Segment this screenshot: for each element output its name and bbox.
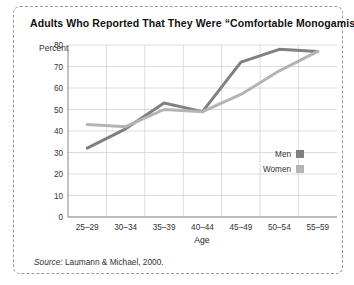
y-tick-label: 50: [54, 106, 64, 115]
plot-container: 01020304050607080 25–2930–3435–3940–4445…: [0, 0, 354, 285]
x-tick-label: 45–49: [230, 223, 253, 232]
y-tick-labels: 01020304050607080: [54, 41, 64, 222]
data-series: [87, 49, 318, 148]
x-tick-label: 40–44: [191, 223, 214, 232]
legend-swatch-women[interactable]: [296, 165, 304, 173]
x-axis-title: Age: [194, 235, 210, 245]
x-tick-label: 30–34: [114, 223, 137, 232]
y-tick-label: 10: [54, 192, 64, 201]
y-tick-label: 0: [58, 213, 63, 222]
legend-swatch-men[interactable]: [296, 150, 304, 158]
series-line-men: [87, 49, 318, 148]
y-tick-label: 20: [54, 170, 64, 179]
y-tick-label: 60: [54, 84, 64, 93]
legend-label-men: Men: [275, 150, 291, 159]
y-tick-label: 40: [54, 127, 64, 136]
x-tick-label: 55–59: [306, 223, 329, 232]
x-tick-label: 35–39: [153, 223, 176, 232]
chart-legend[interactable]: MenWomen: [263, 150, 304, 174]
y-tick-label: 30: [54, 149, 64, 158]
legend-label-women: Women: [263, 165, 292, 174]
grid-lines: [68, 45, 337, 217]
x-tick-label: 25–29: [76, 223, 99, 232]
series-line-women: [87, 51, 318, 126]
y-tick-label: 80: [54, 41, 64, 50]
y-tick-label: 70: [54, 63, 64, 72]
x-tick-label: 50–54: [268, 223, 291, 232]
x-tick-labels: 25–2930–3435–3940–4445–4950–5455–59: [76, 223, 330, 232]
line-chart: 01020304050607080 25–2930–3435–3940–4445…: [0, 0, 354, 285]
